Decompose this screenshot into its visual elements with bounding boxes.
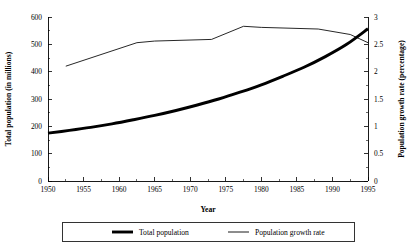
y2-tick-label-3: 3 xyxy=(374,13,378,22)
x-tick-label-1995: 1995 xyxy=(361,185,376,194)
y-axis-left-tick-labels: 0100200300400500600 xyxy=(31,13,42,186)
chart-canvas: 0100200300400500600 00.511.522.53 195019… xyxy=(0,0,414,245)
x-axis-ticks xyxy=(48,177,368,181)
y2-tick-label-0-5: 0.5 xyxy=(374,149,384,158)
y-tick-label-500: 500 xyxy=(31,40,42,49)
x-tick-label-1970: 1970 xyxy=(183,185,198,194)
series-total-population xyxy=(48,29,368,133)
x-tick-label-1960: 1960 xyxy=(112,185,127,194)
legend: Total population Population growth rate xyxy=(63,223,355,242)
series-group xyxy=(48,26,368,133)
x-tick-label-1965: 1965 xyxy=(147,185,162,194)
y2-tick-label-2-5: 2.5 xyxy=(374,40,384,49)
y-axis-left-title: Total population (in millions) xyxy=(4,51,13,146)
y-axis-left-ticks xyxy=(48,17,52,181)
x-axis-tick-labels: 1950195519601965197019751980198519901995 xyxy=(41,185,376,194)
y2-tick-label-1-5: 1.5 xyxy=(374,95,384,104)
population-growth-chart: 0100200300400500600 00.511.522.53 195019… xyxy=(0,0,414,245)
legend-label-total-population: Total population xyxy=(139,228,189,237)
x-tick-label-1985: 1985 xyxy=(289,185,304,194)
series-population-growth-rate xyxy=(66,26,368,66)
x-axis-title: Year xyxy=(200,205,216,214)
y-tick-label-600: 600 xyxy=(31,13,42,22)
axes-group xyxy=(48,17,368,181)
x-tick-label-1950: 1950 xyxy=(41,185,56,194)
y-tick-label-400: 400 xyxy=(31,67,42,76)
y-axis-right-tick-labels: 00.511.522.53 xyxy=(374,13,384,186)
x-tick-label-1975: 1975 xyxy=(218,185,233,194)
y-tick-label-100: 100 xyxy=(31,149,42,158)
legend-label-population-growth-rate: Population growth rate xyxy=(255,228,325,237)
y-tick-label-200: 200 xyxy=(31,122,42,131)
x-tick-label-1955: 1955 xyxy=(76,185,91,194)
y2-tick-label-2: 2 xyxy=(374,67,378,76)
y2-tick-label-1: 1 xyxy=(374,122,378,131)
x-tick-label-1990: 1990 xyxy=(325,185,340,194)
y-axis-right-title: Population growth rate (percentage) xyxy=(397,40,406,158)
y-tick-label-300: 300 xyxy=(31,95,42,104)
x-tick-label-1980: 1980 xyxy=(254,185,269,194)
